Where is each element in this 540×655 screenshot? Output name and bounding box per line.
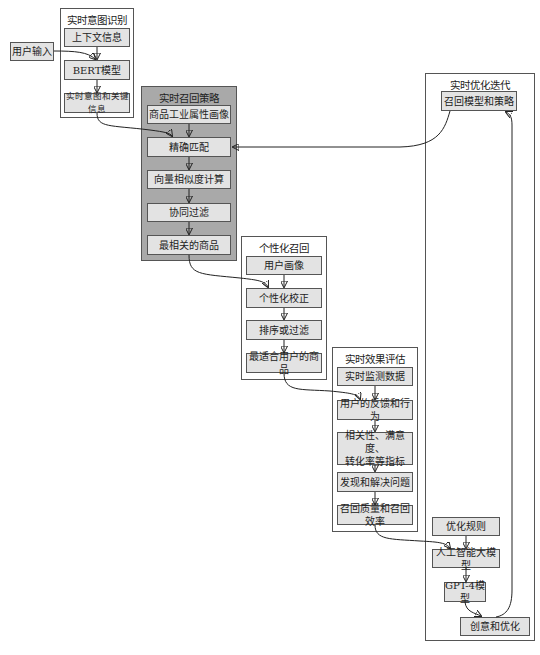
node-recall-quality: 召回质量和召回效率	[337, 505, 413, 525]
node-vector-similarity: 向量相似度计算	[147, 170, 231, 189]
node-recall-model-strategy: 召回模型和策略	[441, 91, 517, 111]
node-bert-model: BERT模型	[64, 60, 130, 80]
node-optimize-rules: 优化规则	[432, 517, 500, 536]
node-product-profile: 商品工业属性画像	[147, 105, 231, 124]
node-find-issues: 发现和解决问题	[337, 472, 413, 492]
cluster-title: 实时召回策略	[142, 90, 236, 105]
node-llm: 人工智能大模型	[432, 549, 500, 568]
node-user-feedback: 用户的反馈和行为	[337, 400, 413, 420]
node-best-for-user: 最适合用户的商品	[246, 353, 322, 373]
node-collaborative-filter: 协同过滤	[147, 203, 231, 222]
node-most-relevant: 最相关的商品	[147, 235, 231, 255]
node-user-profile: 用户画像	[246, 256, 322, 275]
node-metrics: 相关性、满意度、 转化率等指标	[337, 432, 413, 465]
node-user-input: 用户输入	[10, 42, 54, 61]
cluster-title: 个性化召回	[242, 240, 326, 255]
node-intent-result: 实时意图和关键信息	[64, 93, 130, 113]
node-context-info: 上下文信息	[64, 28, 130, 47]
node-monitor-data: 实时监测数据	[337, 367, 413, 386]
cluster-title: 实时意图识别	[61, 12, 133, 27]
node-exact-match: 精确匹配	[147, 137, 231, 157]
node-gpt4-model: GPT-4模型	[444, 582, 486, 602]
cluster-title: 实时效果评估	[333, 351, 417, 366]
node-personal-correct: 个性化校正	[246, 288, 322, 308]
node-creative-optimize: 创意和优化	[460, 617, 530, 636]
cluster-title: 实时优化迭代	[426, 77, 534, 92]
node-sort-filter: 排序或过滤	[246, 320, 322, 340]
